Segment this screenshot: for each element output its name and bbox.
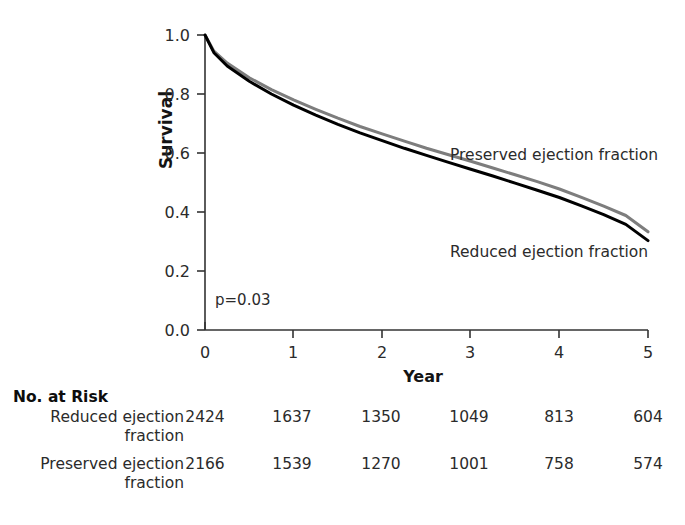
x-tick-label: 1 xyxy=(278,343,308,362)
x-tick-label: 0 xyxy=(190,343,220,362)
risk-row-label-line2: fraction xyxy=(8,474,184,493)
y-tick-label: 0.8 xyxy=(150,85,190,104)
curve-preserved xyxy=(205,35,648,232)
risk-cell: 758 xyxy=(533,455,585,473)
risk-cell: 1049 xyxy=(443,408,495,426)
risk-cell: 2424 xyxy=(179,408,231,426)
y-tick-label: 1.0 xyxy=(150,26,190,45)
x-tick-label: 5 xyxy=(633,343,663,362)
x-tick-label: 2 xyxy=(367,343,397,362)
y-axis-ticks xyxy=(197,35,205,330)
risk-cell: 2166 xyxy=(179,455,231,473)
risk-row-label-line1: Preserved ejection xyxy=(40,455,184,473)
risk-cell: 1001 xyxy=(443,455,495,473)
risk-row-label: Preserved ejection fraction xyxy=(8,455,184,493)
x-tick-label: 3 xyxy=(455,343,485,362)
x-axis-title: Year xyxy=(368,367,478,386)
curve-label-reduced: Reduced ejection fraction xyxy=(450,243,648,261)
risk-cell: 1539 xyxy=(266,455,318,473)
curve-reduced xyxy=(205,35,648,241)
risk-row-label: Reduced ejection fraction xyxy=(8,408,184,446)
survival-plot xyxy=(0,0,685,525)
x-tick-label: 4 xyxy=(544,343,574,362)
y-tick-label: 0.0 xyxy=(150,321,190,340)
risk-cell: 813 xyxy=(533,408,585,426)
survival-figure: Survival 1.0 0.8 0.6 0.4 0.2 0.0 0 1 2 3… xyxy=(0,0,685,525)
y-axis-title: Survival xyxy=(156,60,176,200)
risk-cell: 574 xyxy=(622,455,674,473)
y-tick-label: 0.2 xyxy=(150,262,190,281)
curve-label-preserved: Preserved ejection fraction xyxy=(450,146,658,164)
risk-cell: 604 xyxy=(622,408,674,426)
risk-row-label-line1: Reduced ejection xyxy=(50,408,184,426)
risk-cell: 1637 xyxy=(266,408,318,426)
p-value-annotation: p=0.03 xyxy=(215,291,271,309)
y-tick-label: 0.6 xyxy=(150,144,190,163)
risk-row-label-line2: fraction xyxy=(8,427,184,446)
risk-table-title: No. at Risk xyxy=(13,388,108,406)
risk-cell: 1270 xyxy=(355,455,407,473)
risk-cell: 1350 xyxy=(355,408,407,426)
y-tick-label: 0.4 xyxy=(150,203,190,222)
